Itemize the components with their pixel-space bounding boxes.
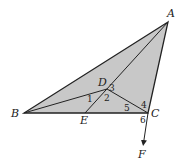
angle-4: 4: [141, 100, 147, 110]
label-e: E: [79, 114, 88, 127]
geometry-diagram: A B C D E F 1 2 3 4 5 6: [0, 0, 180, 164]
angle-6: 6: [140, 115, 146, 125]
angle-2: 2: [104, 93, 110, 103]
angle-5: 5: [124, 103, 130, 113]
label-c: C: [151, 107, 160, 120]
angle-1: 1: [87, 94, 93, 104]
label-d: D: [97, 76, 107, 89]
label-b: B: [10, 107, 19, 120]
label-f: F: [137, 148, 146, 161]
angle-3: 3: [109, 83, 115, 93]
label-a: A: [166, 7, 175, 20]
